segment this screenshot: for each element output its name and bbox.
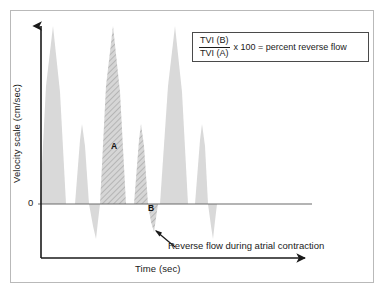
diastolic-peak-1 [75, 124, 89, 204]
reverse-flow-annotation-text: Reverse flow during atrial contraction [168, 240, 324, 251]
tvi-fraction: TVI (B) TVI (A) [199, 36, 230, 58]
x-axis-label: Time (sec) [135, 263, 181, 274]
reverse-flow-deflection-1 [89, 204, 100, 239]
systolic-peak-1 [40, 26, 66, 204]
region-a-diastolic-peak [134, 124, 148, 204]
systolic-peak-3 [160, 26, 188, 204]
region-a-label: A [111, 141, 117, 151]
reverse-flow-deflection-3 [208, 204, 217, 239]
region-b-label: B [148, 203, 154, 213]
region-a-systolic-peak [100, 26, 126, 204]
formula-tail-text: x 100 = percent reverse flow [234, 42, 347, 52]
waveform-cycle-1 [40, 26, 100, 239]
diastolic-peak-3 [195, 124, 208, 204]
waveform-cycle-2-hatched [100, 26, 158, 232]
fraction-numerator: TVI (B) [199, 36, 230, 45]
fraction-denominator: TVI (A) [199, 49, 230, 58]
figure-container: Velocity scale (cm/sec) Time (sec) 0 A B… [0, 0, 387, 294]
formula-box: TVI (B) TVI (A) x 100 = percent reverse … [192, 32, 369, 62]
y-axis-label: Velocity scale (cm/sec) [11, 74, 22, 194]
y-axis-zero-tick-label: 0 [28, 197, 33, 208]
